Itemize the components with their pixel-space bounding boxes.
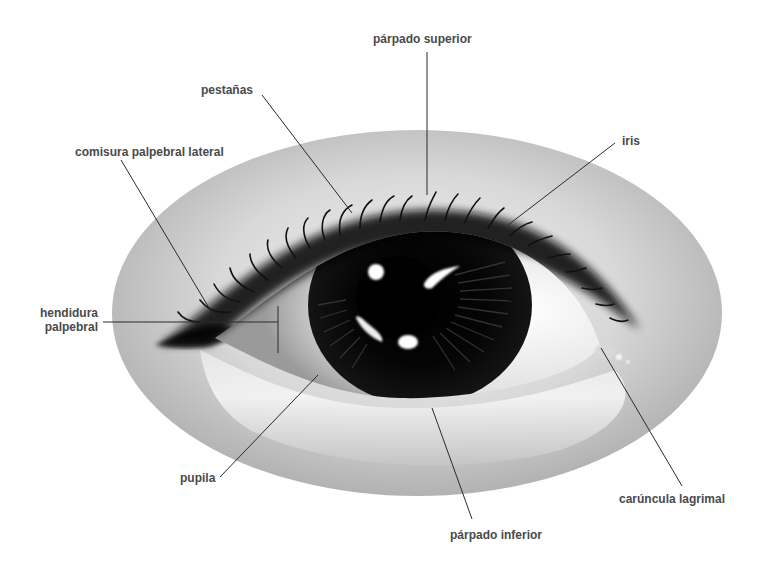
label-caruncula-lagrimal: carúncula lagrimal <box>619 492 725 506</box>
highlight-4 <box>398 335 418 349</box>
highlight-1 <box>368 264 384 280</box>
label-iris: iris <box>622 134 640 148</box>
label-comisura-palpebral-lateral: comisura palpebral lateral <box>75 145 224 159</box>
label-pupila: pupila <box>180 471 215 485</box>
eye-illustration <box>0 0 761 566</box>
label-hendidura: hendidura <box>34 306 98 320</box>
caruncle <box>595 344 615 360</box>
label-parpado-inferior: párpado inferior <box>450 528 542 542</box>
label-parpado-superior: párpado superior <box>373 32 472 46</box>
label-palpebral: palpebral <box>34 320 98 334</box>
label-pestanas: pestañas <box>201 83 253 97</box>
eye-anatomy-diagram: párpado superior pestañas comisura palpe… <box>0 0 761 566</box>
